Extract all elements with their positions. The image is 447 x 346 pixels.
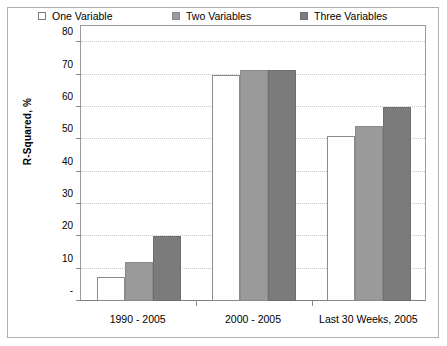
y-tick-label-30: 30 xyxy=(62,187,73,198)
category-separator-1 xyxy=(196,301,197,306)
y-tick-60 xyxy=(76,106,81,107)
category-label-2: 2000 - 2005 xyxy=(225,313,281,325)
legend-label-1: One Variable xyxy=(52,10,113,22)
y-tick-20 xyxy=(76,235,81,236)
plot-inner: -1020304050607080 xyxy=(81,26,425,301)
category-label-1: 1990 - 2005 xyxy=(110,313,166,325)
legend-entry-2[interactable]: Two Variables xyxy=(172,10,251,22)
y-tick-label-40: 40 xyxy=(62,155,73,166)
y-tick-label-20: 20 xyxy=(62,220,73,231)
chart-frame: R-Squared, % -1020304050607080 One Varia… xyxy=(7,7,439,338)
legend-label-3: Three Variables xyxy=(314,10,387,22)
legend-entry-1[interactable]: One Variable xyxy=(38,10,113,22)
plot-area: -1020304050607080 xyxy=(80,25,426,301)
bar-3-cat-3 xyxy=(383,107,411,301)
y-tick-30 xyxy=(76,203,81,204)
bar-3-cat-1 xyxy=(153,236,181,301)
legend-swatch-icon-1 xyxy=(38,12,46,20)
y-axis-title: R-Squared, % xyxy=(22,77,33,187)
y-tick-label-70: 70 xyxy=(62,58,73,69)
category-separator-2 xyxy=(312,301,313,306)
bar-3-cat-2 xyxy=(268,70,296,301)
y-tick-10 xyxy=(76,268,81,269)
y-tick-label-0: - xyxy=(70,285,73,296)
y-tick-40 xyxy=(76,171,81,172)
legend-entry-3[interactable]: Three Variables xyxy=(300,10,387,22)
y-tick-label-80: 80 xyxy=(62,26,73,37)
legend-swatch-icon-2 xyxy=(172,12,180,20)
bar-2-cat-3 xyxy=(355,126,383,301)
bar-1-cat-3 xyxy=(327,136,355,301)
category-label-3: Last 30 Weeks, 2005 xyxy=(319,313,417,325)
bar-2-cat-1 xyxy=(125,262,153,301)
y-tick-label-50: 50 xyxy=(62,123,73,134)
y-tick-label-10: 10 xyxy=(62,252,73,263)
legend-label-2: Two Variables xyxy=(186,10,251,22)
legend-swatch-icon-3 xyxy=(300,12,308,20)
y-tick-50 xyxy=(76,138,81,139)
bar-2-cat-2 xyxy=(240,70,268,301)
y-tick-label-60: 60 xyxy=(62,90,73,101)
bar-1-cat-2 xyxy=(212,75,240,301)
y-tick-70 xyxy=(76,74,81,75)
gridline-80 xyxy=(81,41,425,42)
y-tick-80 xyxy=(76,41,81,42)
bar-1-cat-1 xyxy=(97,277,125,301)
